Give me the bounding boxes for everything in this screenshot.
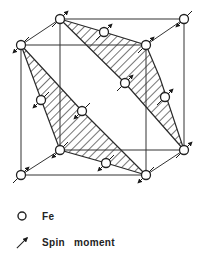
atom-circle-icon	[17, 171, 26, 180]
atom-circle-icon	[180, 15, 189, 24]
atom-circle-icon	[121, 79, 130, 88]
atom-circle-icon	[161, 93, 170, 102]
arrow-icon	[14, 235, 32, 249]
atom-circle-icon	[180, 146, 189, 155]
atom-circle-icon	[102, 159, 111, 168]
atom-circle-icon	[56, 146, 65, 155]
circle-icon	[14, 209, 32, 223]
atom-circle-icon	[37, 96, 46, 105]
legend-item-spin: Spin moment	[14, 235, 115, 249]
atom-circle-icon	[78, 107, 87, 116]
atom-circle-icon	[100, 28, 109, 37]
atom-circle-icon	[17, 41, 26, 50]
legend-label-spin-moment: Spin moment	[42, 237, 115, 248]
fe-unit-cell-diagram	[0, 0, 203, 200]
atom-circle-icon	[56, 15, 65, 24]
legend-item-fe: Fe	[14, 209, 54, 223]
atom-circle-icon	[142, 171, 151, 180]
legend-label-fe: Fe	[42, 211, 54, 222]
atom-circle-icon	[142, 41, 151, 50]
